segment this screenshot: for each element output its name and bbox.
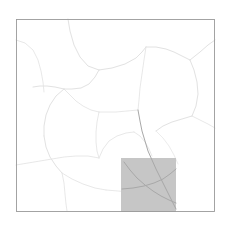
map-background <box>0 0 230 229</box>
map-canvas <box>0 0 230 229</box>
map-figure <box>0 0 230 229</box>
